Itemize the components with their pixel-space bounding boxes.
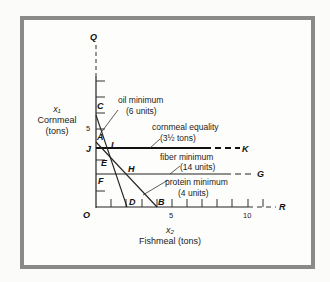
point-j: J <box>86 144 92 154</box>
x-axis-label: Fishmeal (tons) <box>139 236 201 246</box>
point-q: Q <box>90 32 97 42</box>
fiber-minimum-title: fiber minimum <box>160 152 213 162</box>
cornmeal-leader <box>150 139 160 148</box>
origin-o: O <box>83 210 90 220</box>
point-k: K <box>242 144 250 154</box>
x-tick-5: 5 <box>169 211 173 220</box>
point-r: R <box>279 202 286 212</box>
point-d: D <box>129 197 136 207</box>
point-c: C <box>97 101 104 111</box>
oil-minimum-sub: (6 units) <box>126 106 157 116</box>
oil-minimum-title: oil minimum <box>118 95 163 105</box>
point-h: H <box>128 164 135 174</box>
x-tick-10: 10 <box>243 211 251 220</box>
y-axis-var: x₁ <box>52 104 61 114</box>
cornmeal-equality-sub: (3½ tons) <box>160 133 196 143</box>
point-b: B <box>158 197 165 207</box>
point-g: G <box>257 169 264 179</box>
cornmeal-equality-title: cornmeal equality <box>152 122 219 132</box>
y-axis-unit: (tons) <box>45 126 68 136</box>
protein-minimum-sub: (4 units) <box>178 188 209 198</box>
fiber-leader <box>170 166 180 174</box>
protein-minimum-title: protein minimum <box>165 177 228 187</box>
point-l: L <box>111 140 117 150</box>
point-e: E <box>101 158 108 168</box>
point-f: F <box>98 176 104 186</box>
y-tick-5: 5 <box>86 124 90 133</box>
fiber-minimum-sub: (14 units) <box>180 162 216 172</box>
y-axis-label: Cornmeal <box>37 115 76 125</box>
x-axis-var: x₂ <box>165 225 175 235</box>
point-a: A <box>96 132 104 142</box>
oil-leader <box>100 110 118 134</box>
feasible-region-diagram: Q C A J L K E H G F D B R O 5 5 10 oil m… <box>0 0 330 282</box>
